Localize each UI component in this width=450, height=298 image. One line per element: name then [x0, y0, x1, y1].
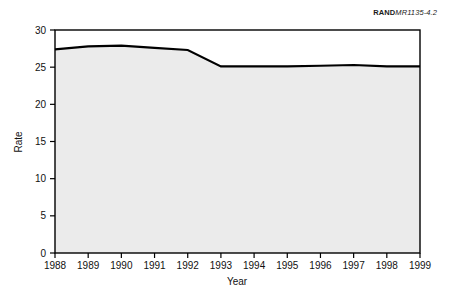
- x-axis-tick-label: 1995: [276, 260, 299, 271]
- area-chart: 051015202530 198819891990199119921993199…: [0, 0, 450, 298]
- x-axis-tick-label: 1990: [110, 260, 133, 271]
- y-axis-tick-label: 10: [35, 173, 47, 184]
- x-axis-tick-label: 1994: [243, 260, 266, 271]
- series-area-rate: [55, 46, 420, 253]
- y-axis-title: Rate: [13, 131, 24, 153]
- x-axis-tick-label: 1989: [77, 260, 100, 271]
- y-axis-tick-label: 20: [35, 99, 47, 110]
- x-axis: 1988198919901991199219931994199519961997…: [44, 253, 432, 271]
- y-axis-tick-label: 25: [35, 62, 47, 73]
- figure-container: RANDMR1135-4.2 051015202530 198819891990…: [0, 0, 450, 298]
- y-axis-tick-label: 30: [35, 25, 47, 36]
- y-axis: 051015202530: [35, 25, 55, 259]
- x-axis-tick-label: 1996: [309, 260, 332, 271]
- x-axis-title: Year: [227, 276, 248, 287]
- x-axis-tick-label: 1991: [143, 260, 166, 271]
- x-axis-tick-label: 1997: [343, 260, 366, 271]
- y-axis-tick-label: 15: [35, 136, 47, 147]
- x-axis-tick-label: 1993: [210, 260, 233, 271]
- y-axis-tick-label: 0: [40, 248, 46, 259]
- x-axis-tick-label: 1988: [44, 260, 67, 271]
- x-axis-tick-label: 1999: [409, 260, 432, 271]
- x-axis-tick-label: 1998: [376, 260, 399, 271]
- y-axis-tick-label: 5: [40, 210, 46, 221]
- x-axis-tick-label: 1992: [177, 260, 200, 271]
